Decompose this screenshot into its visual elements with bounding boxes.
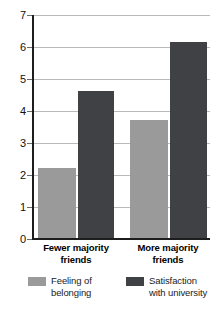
category-label-more-line-1: More majority — [138, 242, 199, 253]
bar-more-satisfaction-with-university[interactable] — [170, 42, 207, 238]
category-label-more-majority-friends: More majority friends — [118, 242, 218, 265]
bar-chart-figure: 7 6 5 4 3 2 1 0 — [0, 0, 220, 313]
category-label-fewer-majority-friends: Fewer majority friends — [24, 242, 128, 265]
legend-swatch-feeling-of-belonging — [28, 277, 46, 286]
category-label-more-line-2: friends — [153, 254, 184, 265]
category-label-fewer-line-1: Fewer majority — [43, 242, 109, 253]
legend-label-feeling-of-belonging: Feeling of belonging — [51, 275, 92, 299]
plot-area: 7 6 5 4 3 2 1 0 — [0, 0, 220, 245]
x-axis-line — [32, 238, 210, 240]
legend-item-satisfaction-with-university[interactable]: Satisfaction with university — [126, 275, 207, 299]
bar-more-feeling-of-belonging[interactable] — [130, 120, 168, 238]
bar-fewer-feeling-of-belonging[interactable] — [38, 168, 76, 238]
legend-item-feeling-of-belonging[interactable]: Feeling of belonging — [28, 275, 92, 299]
category-label-fewer-line-2: friends — [61, 254, 92, 265]
legend-label-satisfaction-with-university: Satisfaction with university — [149, 275, 207, 299]
chart-legend: Feeling of belonging Satisfaction with u… — [0, 275, 220, 309]
bar-fewer-satisfaction-with-university[interactable] — [78, 91, 114, 238]
category-labels: Fewer majority friends More majority fri… — [0, 242, 220, 272]
legend-swatch-satisfaction-with-university — [126, 277, 144, 286]
y-axis-line — [32, 15, 34, 239]
